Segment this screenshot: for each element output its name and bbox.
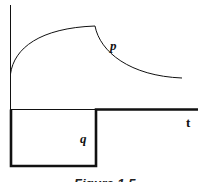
label-t: t	[186, 115, 191, 130]
figure-caption: Figure 1.5	[74, 176, 136, 182]
p-curve-decay	[95, 26, 182, 78]
q-pulse	[11, 110, 198, 167]
p-curve-rise	[11, 26, 96, 74]
diagram-canvas: p q t Figure 1.5	[0, 0, 201, 182]
label-p: p	[109, 38, 117, 53]
label-q: q	[80, 131, 87, 146]
